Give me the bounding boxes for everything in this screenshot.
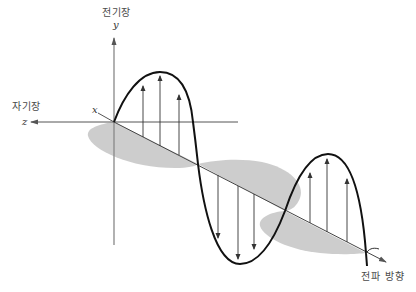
magnetic-field-label: 자기장: [12, 101, 41, 112]
propagation-direction-label: 전파 방향: [361, 271, 405, 282]
x-axis-label: x: [92, 104, 98, 115]
em-wave-diagram: [0, 0, 416, 292]
propagation-axis: [114, 122, 386, 262]
magnetic-field-lobes: [88, 122, 366, 254]
axes: [31, 38, 386, 262]
magnetic-lobe-2: [198, 160, 301, 211]
x-axis-back: [98, 113, 114, 122]
electric-field-label: 전기장: [102, 7, 131, 18]
z-axis-label: z: [22, 116, 27, 127]
y-axis-label: y: [113, 19, 119, 30]
